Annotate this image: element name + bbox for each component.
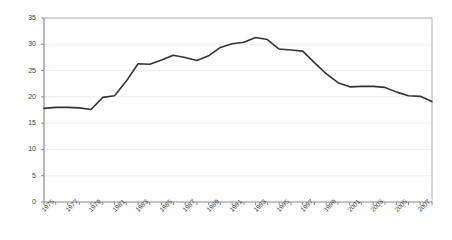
y-axis-tick-label: 15 — [18, 119, 36, 127]
y-axis-tick-label: 35 — [18, 14, 36, 22]
y-axis-tick-label: 5 — [18, 172, 36, 180]
y-axis-tick-label: 20 — [18, 93, 36, 101]
line-chart: 0510152025303519751977197919811983198519… — [0, 0, 452, 240]
y-axis-tick-label: 10 — [18, 145, 36, 153]
y-axis-tick-label: 30 — [18, 40, 36, 48]
y-axis-tick-label: 25 — [18, 67, 36, 75]
y-axis-tick-label: 0 — [18, 198, 36, 206]
data-series-line — [44, 37, 432, 109]
